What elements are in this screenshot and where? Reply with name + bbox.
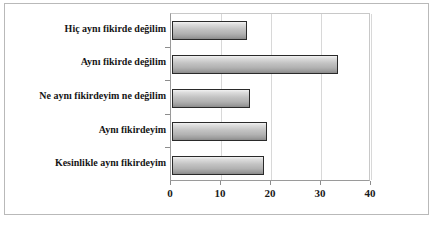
x-axis-tick-label: 10 [200, 187, 240, 199]
plot-area [170, 13, 370, 181]
y-axis-tick [165, 80, 170, 81]
bar [172, 122, 267, 141]
y-axis-tick [165, 47, 170, 48]
x-axis-tick [270, 181, 271, 185]
category-label: Ne aynı fikirdeyim ne değilim [0, 90, 166, 101]
x-axis-tick [370, 181, 371, 185]
x-axis-tick [170, 181, 171, 185]
x-axis-tick-label: 30 [300, 187, 340, 199]
bar [172, 55, 338, 74]
category-label: Kesinlikle aynı fikirdeyim [0, 157, 166, 168]
figure-caption [6, 220, 426, 231]
bar [172, 89, 250, 108]
y-axis-tick [165, 114, 170, 115]
bar [172, 156, 264, 175]
y-axis-tick [165, 147, 170, 148]
x-axis-tick-label: 40 [350, 187, 390, 199]
category-label: Hiç aynı fikirde değilim [0, 23, 166, 34]
x-axis-tick-label: 0 [150, 187, 190, 199]
x-axis-tick [220, 181, 221, 185]
x-axis-tick [320, 181, 321, 185]
gridline [371, 14, 372, 180]
chart-figure: 010203040Kesinlikle aynı fikirdeyimAynı … [0, 0, 437, 233]
category-label: Aynı fikirde değilim [0, 56, 166, 67]
category-label: Aynı fikirdeyim [0, 124, 166, 135]
x-axis-tick-label: 20 [250, 187, 290, 199]
gridline [271, 14, 272, 180]
gridline [321, 14, 322, 180]
bar [172, 21, 247, 40]
